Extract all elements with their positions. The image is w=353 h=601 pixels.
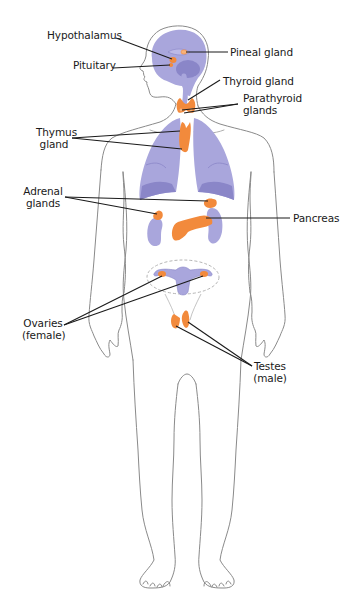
label-ovaries-line1: Ovaries — [22, 317, 64, 329]
label-adrenal-line1: Adrenal — [22, 185, 64, 197]
label-testes-line2: (male) — [252, 372, 288, 384]
label-hypothalamus: Hypothalamus — [47, 29, 122, 41]
label-parathyroid-line1: Parathyroid — [243, 92, 302, 104]
label-ovaries-line2: (female) — [22, 329, 64, 341]
label-thymus-line1: Thymus — [36, 126, 72, 138]
label-pineal-gland: Pineal gland — [230, 46, 293, 58]
label-thyroid-gland: Thyroid gland — [223, 75, 294, 87]
label-parathyroid-line2: glands — [243, 104, 277, 116]
adrenal-right-shape — [204, 199, 217, 209]
label-pancreas: Pancreas — [293, 212, 339, 224]
thymus-shape — [179, 122, 191, 152]
uterus — [147, 260, 219, 320]
pancreas-shape — [172, 215, 212, 240]
label-testes-line1: Testes — [252, 360, 288, 372]
label-thymus-line2: gland — [36, 138, 72, 150]
body-illustration — [0, 0, 353, 601]
label-pituitary: Pituitary — [73, 59, 116, 71]
endocrine-system-diagram: Hypothalamus Pituitary Pineal gland Thyr… — [0, 0, 353, 601]
label-adrenal-line2: glands — [22, 197, 64, 209]
brain — [152, 30, 207, 106]
adrenal-left-shape — [153, 211, 163, 221]
